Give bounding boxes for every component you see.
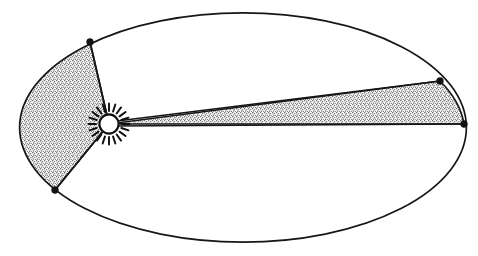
sun-ray-6 <box>103 136 105 143</box>
sun-ray-18 <box>120 112 126 116</box>
node-right-dot <box>461 121 468 128</box>
aphelion-sector-group <box>109 81 464 124</box>
kepler-orbit-figure <box>0 0 478 256</box>
sun-ray-16 <box>113 105 115 112</box>
sun-ray-1 <box>121 128 128 130</box>
aphelion-sector-texture-overlay <box>109 81 464 124</box>
sun-ray-17 <box>117 107 121 113</box>
node-upper-left-dot <box>87 39 94 46</box>
sun-ray-2 <box>120 132 126 136</box>
orbit-diagram-svg <box>0 0 478 256</box>
node-lower-left-dot <box>52 187 59 194</box>
node-upper-right-dot <box>437 78 444 85</box>
sun-ray-4 <box>113 136 115 143</box>
sun-ray-3 <box>117 135 121 141</box>
sun-disc <box>99 114 118 133</box>
